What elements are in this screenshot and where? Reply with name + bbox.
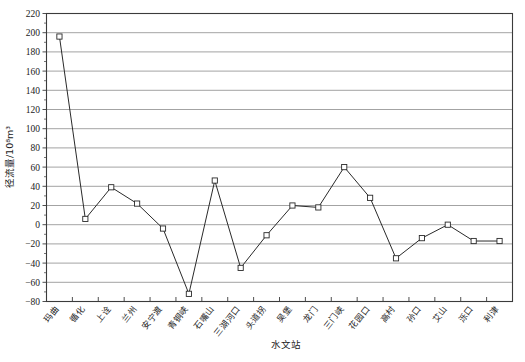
runoff-line-chart: 220200180160140120100806040200−20−40−60−… bbox=[0, 0, 525, 362]
y-tick-label: −20 bbox=[25, 239, 40, 249]
data-point-marker[interactable] bbox=[368, 195, 373, 200]
data-point-marker[interactable] bbox=[109, 185, 114, 190]
y-tick-label: −80 bbox=[25, 297, 40, 307]
y-tick-label: 160 bbox=[26, 67, 41, 77]
data-point-marker[interactable] bbox=[497, 238, 502, 243]
data-point-marker[interactable] bbox=[393, 256, 398, 261]
x-tick-label: 兰州 bbox=[120, 304, 139, 324]
x-tick-label: 循化 bbox=[68, 304, 87, 324]
runoff-series-line[interactable] bbox=[59, 37, 499, 294]
x-tick-label: 头道拐 bbox=[244, 304, 269, 331]
data-point-marker[interactable] bbox=[445, 222, 450, 227]
x-tick-label: 高村 bbox=[379, 304, 398, 324]
x-tick-label: 吴堡 bbox=[275, 304, 294, 324]
x-axis-tick-labels: 玛曲循化上诠兰州安宁渡青铜峡石嘴山三湖河口头道拐吴堡龙门三门峡花园口高村孙口艾山… bbox=[42, 304, 501, 339]
x-tick-label: 三湖河口 bbox=[212, 304, 242, 339]
grid-lines bbox=[47, 33, 513, 283]
data-point-marker[interactable] bbox=[160, 226, 165, 231]
y-tick-label: 140 bbox=[26, 86, 41, 96]
data-point-marker[interactable] bbox=[342, 165, 347, 170]
data-point-marker[interactable] bbox=[135, 201, 140, 206]
data-point-marker[interactable] bbox=[264, 233, 269, 238]
data-point-marker[interactable] bbox=[83, 216, 88, 221]
data-point-marker[interactable] bbox=[238, 265, 243, 270]
data-point-marker[interactable] bbox=[290, 203, 295, 208]
y-tick-label: 0 bbox=[35, 220, 40, 230]
x-axis-ticks bbox=[47, 297, 513, 302]
x-tick-label: 安宁渡 bbox=[140, 304, 165, 331]
runoff-data-markers[interactable] bbox=[57, 34, 502, 296]
x-tick-label: 龙门 bbox=[301, 304, 320, 324]
x-tick-label: 花园口 bbox=[347, 304, 372, 331]
data-point-marker[interactable] bbox=[212, 178, 217, 183]
y-axis-title: 径流量/10⁸m³ bbox=[4, 126, 15, 188]
x-tick-label: 艾山 bbox=[430, 304, 449, 324]
y-tick-label: 100 bbox=[26, 124, 41, 134]
y-tick-label: 180 bbox=[26, 47, 41, 57]
y-tick-label: 220 bbox=[26, 9, 41, 19]
x-tick-label: 泺口 bbox=[456, 304, 475, 324]
y-tick-label: 200 bbox=[26, 28, 41, 38]
data-point-marker[interactable] bbox=[316, 205, 321, 210]
x-tick-label: 三门峡 bbox=[321, 304, 346, 331]
chart-canvas: 220200180160140120100806040200−20−40−60−… bbox=[0, 0, 525, 362]
y-tick-label: 120 bbox=[26, 105, 41, 115]
x-tick-label: 上诠 bbox=[94, 304, 113, 324]
data-point-marker[interactable] bbox=[57, 34, 62, 39]
x-tick-label: 青铜峡 bbox=[166, 304, 191, 331]
data-point-marker[interactable] bbox=[419, 236, 424, 241]
y-tick-label: 80 bbox=[31, 143, 41, 153]
y-tick-label: −40 bbox=[25, 259, 40, 269]
x-tick-label: 石嘴山 bbox=[192, 304, 217, 331]
y-tick-label: −60 bbox=[25, 278, 40, 288]
x-axis-title: 水文站 bbox=[271, 339, 301, 350]
plot-area-frame bbox=[47, 14, 513, 302]
y-tick-label: 20 bbox=[31, 201, 41, 211]
x-tick-label: 孙口 bbox=[405, 304, 424, 324]
data-point-marker[interactable] bbox=[186, 291, 191, 296]
y-tick-label: 40 bbox=[31, 182, 41, 192]
x-tick-label: 利津 bbox=[482, 304, 501, 324]
y-axis-ticks: 220200180160140120100806040200−20−40−60−… bbox=[25, 9, 46, 307]
data-point-marker[interactable] bbox=[471, 238, 476, 243]
x-tick-label: 玛曲 bbox=[42, 304, 61, 324]
y-tick-label: 60 bbox=[31, 163, 41, 173]
